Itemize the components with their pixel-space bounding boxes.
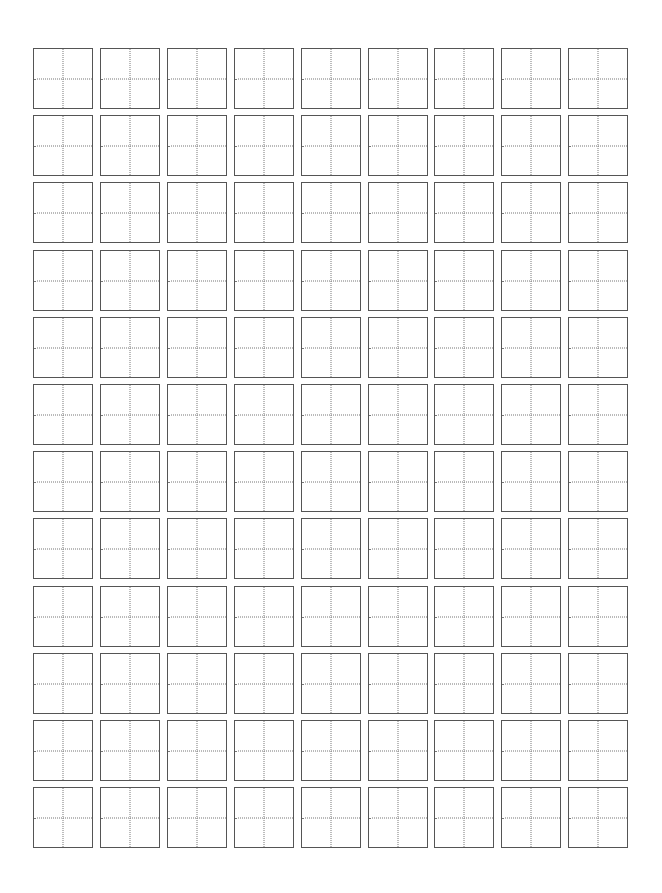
grid-cell: [167, 182, 227, 243]
horizontal-guide-line: [302, 750, 360, 751]
grid-cell: [167, 586, 227, 647]
grid-cell: [501, 451, 561, 512]
grid-cell: [568, 518, 628, 579]
grid-cell: [234, 787, 294, 848]
horizontal-guide-line: [34, 347, 92, 348]
grid-cell: [568, 451, 628, 512]
horizontal-guide-line: [302, 683, 360, 684]
grid-cell: [568, 182, 628, 243]
horizontal-guide-line: [34, 481, 92, 482]
grid-cell: [100, 250, 160, 311]
grid-cell: [501, 720, 561, 781]
horizontal-guide-line: [502, 78, 560, 79]
grid-cell: [234, 250, 294, 311]
grid-cell: [568, 720, 628, 781]
grid-cell: [301, 182, 361, 243]
grid-cell: [501, 182, 561, 243]
grid-cell: [100, 317, 160, 378]
horizontal-guide-line: [235, 683, 293, 684]
horizontal-guide-line: [369, 212, 427, 213]
horizontal-guide-line: [168, 145, 226, 146]
grid-cell: [33, 720, 93, 781]
horizontal-guide-line: [569, 145, 627, 146]
horizontal-guide-line: [168, 280, 226, 281]
grid-cell: [434, 317, 494, 378]
horizontal-guide-line: [569, 683, 627, 684]
horizontal-guide-line: [168, 548, 226, 549]
horizontal-guide-line: [369, 817, 427, 818]
grid-cell: [501, 653, 561, 714]
horizontal-guide-line: [34, 145, 92, 146]
horizontal-guide-line: [302, 817, 360, 818]
horizontal-guide-line: [569, 280, 627, 281]
horizontal-guide-line: [235, 347, 293, 348]
grid-cell: [33, 653, 93, 714]
grid-cell: [234, 317, 294, 378]
grid-cell: [568, 48, 628, 109]
grid-cell: [434, 48, 494, 109]
horizontal-guide-line: [369, 616, 427, 617]
horizontal-guide-line: [101, 78, 159, 79]
horizontal-guide-line: [168, 683, 226, 684]
grid-cell: [368, 586, 428, 647]
horizontal-guide-line: [435, 414, 493, 415]
grid-cell: [33, 384, 93, 445]
horizontal-guide-line: [235, 78, 293, 79]
horizontal-guide-line: [502, 280, 560, 281]
horizontal-guide-line: [435, 548, 493, 549]
grid-cell: [368, 48, 428, 109]
grid-cell: [301, 384, 361, 445]
grid-cell: [501, 518, 561, 579]
grid-cell: [100, 518, 160, 579]
horizontal-guide-line: [34, 78, 92, 79]
horizontal-guide-line: [302, 548, 360, 549]
grid-cell: [368, 115, 428, 176]
horizontal-guide-line: [168, 481, 226, 482]
grid-cell: [368, 787, 428, 848]
horizontal-guide-line: [235, 616, 293, 617]
grid-cell: [434, 653, 494, 714]
grid-cell: [501, 115, 561, 176]
horizontal-guide-line: [168, 750, 226, 751]
grid-cell: [501, 250, 561, 311]
grid-cell: [234, 451, 294, 512]
grid-cell: [234, 115, 294, 176]
horizontal-guide-line: [369, 280, 427, 281]
horizontal-guide-line: [101, 481, 159, 482]
grid-cell: [234, 586, 294, 647]
practice-grid: [0, 0, 662, 893]
grid-cell: [234, 720, 294, 781]
grid-cell: [368, 317, 428, 378]
horizontal-guide-line: [369, 548, 427, 549]
grid-cell: [568, 653, 628, 714]
horizontal-guide-line: [435, 78, 493, 79]
grid-cell: [301, 787, 361, 848]
horizontal-guide-line: [34, 616, 92, 617]
grid-cell: [167, 720, 227, 781]
grid-cell: [100, 182, 160, 243]
grid-cell: [33, 451, 93, 512]
grid-cell: [167, 250, 227, 311]
grid-cell: [33, 48, 93, 109]
horizontal-guide-line: [302, 414, 360, 415]
grid-cell: [501, 586, 561, 647]
horizontal-guide-line: [502, 347, 560, 348]
grid-cell: [301, 653, 361, 714]
horizontal-guide-line: [34, 683, 92, 684]
grid-cell: [100, 720, 160, 781]
grid-cell: [234, 653, 294, 714]
horizontal-guide-line: [369, 683, 427, 684]
grid-cell: [434, 586, 494, 647]
grid-cell: [301, 451, 361, 512]
horizontal-guide-line: [569, 817, 627, 818]
horizontal-guide-line: [502, 683, 560, 684]
horizontal-guide-line: [435, 481, 493, 482]
horizontal-guide-line: [502, 548, 560, 549]
grid-cell: [100, 787, 160, 848]
horizontal-guide-line: [502, 145, 560, 146]
horizontal-guide-line: [369, 414, 427, 415]
horizontal-guide-line: [101, 548, 159, 549]
horizontal-guide-line: [502, 750, 560, 751]
grid-cell: [301, 115, 361, 176]
grid-cell: [100, 586, 160, 647]
